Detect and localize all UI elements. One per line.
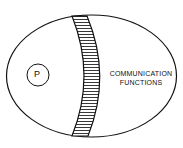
p-label: P — [34, 69, 40, 79]
label-line-2: FUNCTIONS — [106, 78, 176, 87]
label-line-1: COMMUNICATION — [106, 69, 176, 78]
communication-functions-label: COMMUNICATION FUNCTIONS — [106, 69, 176, 87]
